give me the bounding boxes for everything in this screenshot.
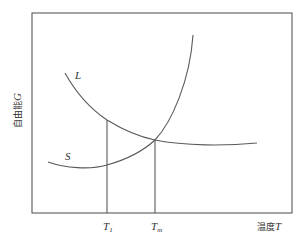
solid-curve-label: S: [65, 150, 71, 162]
plot-frame: [32, 13, 292, 213]
x-axis-label: 温度T: [257, 220, 282, 232]
liquid-curve: [65, 73, 257, 145]
tm-label: Tm: [151, 220, 162, 234]
solid-curve: [48, 35, 193, 168]
liquid-curve-label: L: [74, 69, 81, 81]
y-axis-label: 自由能G: [11, 93, 23, 128]
free-energy-temperature-diagram: L S T1 Tm 温度T 自由能G: [0, 0, 303, 241]
t1-label: T1: [103, 220, 113, 234]
